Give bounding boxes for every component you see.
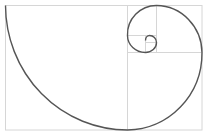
golden-spiral-diagram — [0, 0, 205, 138]
grid-lines — [6, 6, 203, 131]
outer-rectangle — [6, 6, 203, 131]
spiral-curve — [6, 5, 203, 130]
